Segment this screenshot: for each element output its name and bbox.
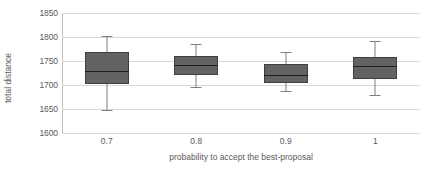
lower-whisker-cap xyxy=(101,110,112,111)
x-axis-tick-label: 0.7 xyxy=(101,136,113,146)
box-iqr-rect xyxy=(264,64,308,83)
box-iqr-rect xyxy=(353,57,397,80)
box-iqr-rect xyxy=(85,52,129,83)
lower-whisker-line xyxy=(375,79,376,94)
upper-whisker-line xyxy=(375,41,376,56)
y-axis-tick-label: 1800 xyxy=(20,32,58,42)
lower-whisker-cap xyxy=(280,91,291,92)
upper-whisker-line xyxy=(285,52,286,64)
median-line xyxy=(264,75,308,76)
lower-whisker-line xyxy=(196,75,197,87)
lower-whisker-cap xyxy=(191,87,202,88)
y-axis-tick-label: 1850 xyxy=(20,8,58,18)
lower-whisker-cap xyxy=(370,95,381,96)
x-axis-tick-label: 0.8 xyxy=(190,136,202,146)
box-plot-item[interactable] xyxy=(174,13,218,133)
box-plot-item[interactable] xyxy=(85,13,129,133)
x-axis-tick-label: 1 xyxy=(373,136,378,146)
median-line xyxy=(85,71,129,72)
x-axis-tick-labels: 0.70.80.91 xyxy=(62,136,420,150)
y-axis-tick-label: 1650 xyxy=(20,104,58,114)
median-line xyxy=(353,66,397,67)
upper-whisker-cap xyxy=(101,36,112,37)
upper-whisker-cap xyxy=(370,41,381,42)
x-axis-title: probability to accept the best-proposal xyxy=(62,152,420,162)
box-plot-item[interactable] xyxy=(264,13,308,133)
box-plot-chart: 185018001750170016501600 total distance … xyxy=(0,0,431,179)
median-line xyxy=(174,65,218,66)
gridline xyxy=(62,133,420,134)
upper-whisker-line xyxy=(106,36,107,52)
box-plot-item[interactable] xyxy=(353,13,397,133)
y-axis-tick-label: 1600 xyxy=(20,128,58,138)
y-axis-tick-label: 1700 xyxy=(20,80,58,90)
lower-whisker-line xyxy=(285,83,286,91)
upper-whisker-line xyxy=(196,44,197,56)
y-axis-tick-label: 1750 xyxy=(20,56,58,66)
upper-whisker-cap xyxy=(280,52,291,53)
lower-whisker-line xyxy=(106,84,107,111)
upper-whisker-cap xyxy=(191,44,202,45)
y-axis-tick-labels: 185018001750170016501600 xyxy=(14,13,58,133)
x-axis-tick-label: 0.9 xyxy=(280,136,292,146)
plot-area xyxy=(62,13,420,133)
y-axis-title: total distance xyxy=(3,18,13,138)
